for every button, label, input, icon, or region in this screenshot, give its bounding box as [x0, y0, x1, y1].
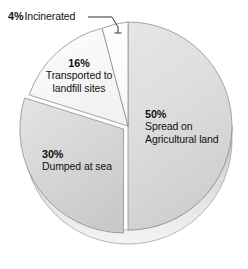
slice-percent-sea: 30% — [42, 148, 112, 160]
slice-label-sea: 30% Dumped at sea — [42, 148, 112, 173]
slice-label-incinerated: 4%Incinerated — [8, 10, 75, 22]
pie-chart-figure: 4%Incinerated 16% Transported to landfil… — [0, 0, 248, 269]
slice-text-incinerated: Incinerated — [24, 10, 75, 22]
slice-text-landfill-line1: Transported to — [27, 69, 131, 81]
slice-text-landfill-line2: landfill sites — [27, 82, 131, 94]
slice-percent-landfill: 16% — [27, 57, 131, 69]
slice-text-agricultural-line2: Agricultural land — [145, 133, 219, 145]
slice-percent-incinerated: 4% — [8, 10, 23, 22]
slice-label-agricultural: 50% Spread on Agricultural land — [145, 108, 219, 145]
slice-label-landfill: 16% Transported to landfill sites — [27, 57, 131, 94]
slice-text-agricultural-line1: Spread on — [145, 120, 219, 132]
slice-percent-agricultural: 50% — [145, 108, 219, 120]
slice-text-sea-line1: Dumped at sea — [42, 160, 112, 172]
